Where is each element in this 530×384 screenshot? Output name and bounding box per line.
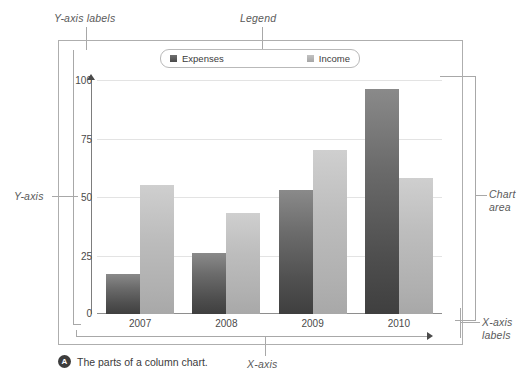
legend-label-income: Income [319, 53, 350, 64]
y-tick-label-25: 25 [81, 250, 92, 261]
bar-2007-expenses[interactable] [106, 274, 140, 314]
legend-swatch-income [307, 55, 314, 62]
y-tick-label-100: 100 [75, 75, 92, 86]
annotation-y-axis-labels: Y-axis labels [54, 12, 115, 25]
caption-text: The parts of a column chart. [77, 356, 208, 368]
x-axis-label-2010: 2010 [356, 318, 442, 329]
bar-2009-expenses[interactable] [279, 190, 313, 314]
legend-label-expenses: Expenses [182, 53, 224, 64]
x-axis-label-2007: 2007 [97, 318, 183, 329]
bar-2010-expenses[interactable] [365, 89, 399, 314]
y-tick-label-0: 0 [86, 308, 92, 319]
bracket-chart-area-vertical [475, 76, 476, 321]
annotation-x-axis-labels-line2: labels [482, 329, 511, 342]
annotation-chart-area-line2: area [489, 201, 511, 214]
y-tick-label-75: 75 [81, 133, 92, 144]
bar-group-2009 [270, 80, 356, 314]
bar-group-2008 [183, 80, 269, 314]
legend-item-income[interactable]: Income [307, 53, 350, 64]
bar-2009-income[interactable] [313, 150, 347, 314]
figure-caption: A The parts of a column chart. [58, 355, 208, 368]
chart-legend[interactable]: Expenses Income [160, 49, 360, 68]
plot-area: 100 75 50 25 0 [97, 80, 442, 314]
bar-2010-income[interactable] [399, 178, 433, 314]
caption-badge-icon: A [58, 355, 71, 368]
bracket-x-axis-labels-lead [460, 322, 480, 323]
annotation-y-axis: Y-axis [14, 190, 44, 203]
figure-page: Y-axis labels Legend Y-axis Chart area X… [0, 0, 530, 384]
bar-2007-income[interactable] [140, 185, 174, 314]
y-tick-label-50: 50 [81, 192, 92, 203]
legend-item-expenses[interactable]: Expenses [170, 53, 224, 64]
legend-swatch-expenses [170, 55, 177, 62]
annotation-legend: Legend [240, 12, 276, 25]
annotation-x-axis-labels-line1: X-axis [482, 316, 512, 329]
bar-group-2010 [356, 80, 442, 314]
bar-group-2007 [97, 80, 183, 314]
x-axis-label-2009: 2009 [270, 318, 356, 329]
bar-2008-expenses[interactable] [192, 253, 226, 314]
leader-chart-area [476, 195, 487, 196]
annotation-chart-area-line1: Chart [489, 188, 516, 201]
x-axis-labels: 2007 2008 2009 2010 [97, 318, 442, 329]
x-axis-label-2008: 2008 [183, 318, 269, 329]
annotation-x-axis: X-axis [247, 358, 277, 371]
bar-2008-income[interactable] [226, 213, 260, 314]
bar-groups [97, 80, 442, 314]
